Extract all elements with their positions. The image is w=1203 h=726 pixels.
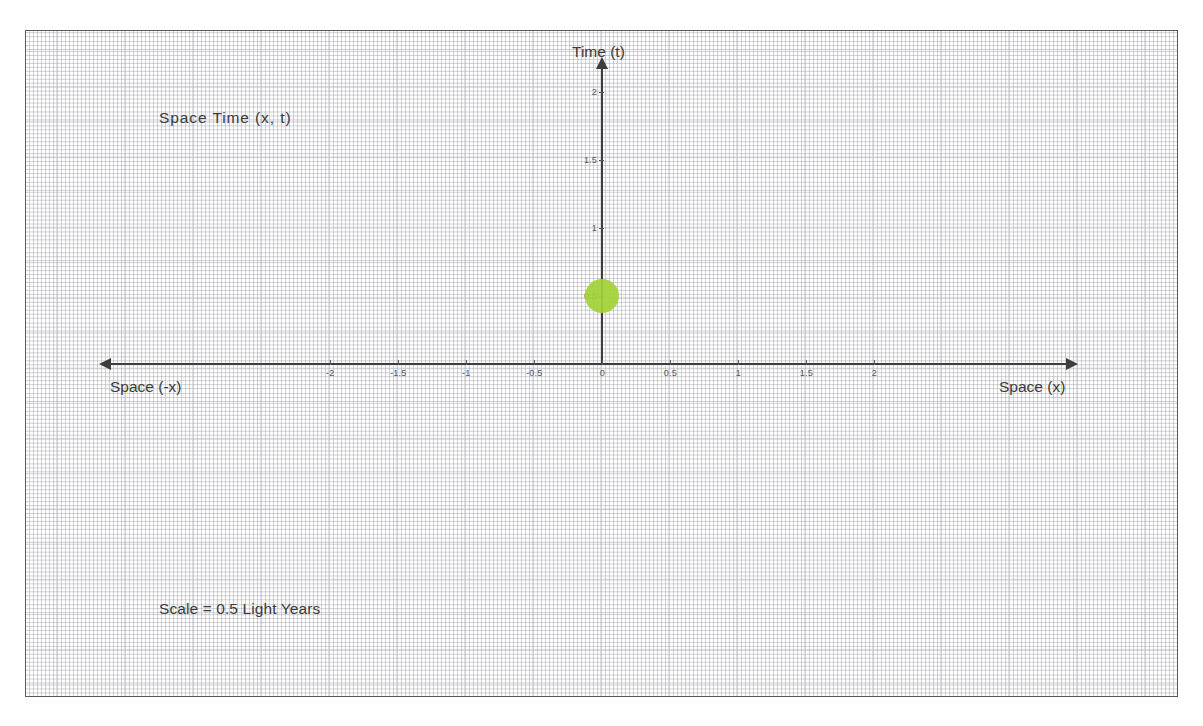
time-axis-tick — [599, 228, 604, 229]
space-axis-tick-label: 2 — [872, 368, 877, 378]
space-axis-tick-label: 0.5 — [664, 368, 677, 378]
space-axis-tick — [330, 360, 331, 365]
space-axis-tick — [602, 360, 603, 365]
space-axis-tick — [466, 360, 467, 365]
arrow-left-icon — [99, 358, 111, 370]
space-axis-tick — [806, 360, 807, 365]
space-axis-tick-label: 1.5 — [800, 368, 813, 378]
space-axis-tick — [534, 360, 535, 365]
space-axis-tick-label: -1 — [462, 368, 470, 378]
space-positive-axis-label: Space (x) — [999, 378, 1065, 396]
space-axis-tick-label: 0 — [600, 368, 605, 378]
diagram-page-frame: -2-1.5-1-0.500.511.52 0.511.52 Time (t) … — [25, 30, 1178, 697]
event-marker — [585, 279, 619, 313]
space-axis-tick-label: 1 — [736, 368, 741, 378]
space-axis-tick-label: -2 — [326, 368, 334, 378]
diagram-title: Space Time (x, t) — [159, 109, 291, 127]
space-axis-line — [111, 363, 1076, 365]
scale-note: Scale = 0.5 Light Years — [159, 600, 320, 618]
space-axis-tick — [398, 360, 399, 365]
time-axis-tick-label: 2 — [592, 87, 597, 97]
time-axis-line — [601, 65, 603, 365]
space-axis-tick-label: -1.5 — [390, 368, 406, 378]
time-axis-tick-label: 1.5 — [584, 155, 597, 165]
time-axis-tick — [599, 160, 604, 161]
time-axis-label: Time (t) — [572, 43, 625, 61]
arrow-right-icon — [1066, 358, 1078, 370]
time-axis-tick-label: 1 — [592, 223, 597, 233]
space-axis-tick — [738, 360, 739, 365]
time-axis-tick — [599, 92, 604, 93]
space-negative-axis-label: Space (-x) — [110, 378, 182, 396]
space-axis-tick-label: -0.5 — [526, 368, 542, 378]
space-axis-tick — [670, 360, 671, 365]
space-axis-tick — [874, 360, 875, 365]
spacetime-plot: -2-1.5-1-0.500.511.52 0.511.52 Time (t) … — [26, 31, 1177, 696]
